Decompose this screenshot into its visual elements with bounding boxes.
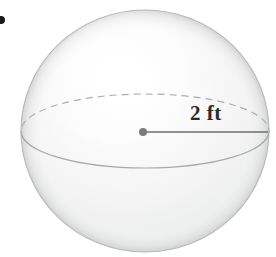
center-point-dot [139,128,147,136]
radius-dimension-label: 2 ft [190,103,222,124]
list-bullet-icon [0,16,5,24]
sphere-figure: 2 ft [0,0,276,257]
sphere-diagram-canvas [0,0,276,257]
